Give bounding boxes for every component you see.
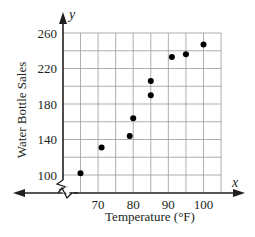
y-tick-labels: 100140180220260 <box>38 26 58 183</box>
data-point <box>169 54 175 60</box>
data-point <box>130 115 136 121</box>
x-axis-arrow-right-icon <box>233 189 245 197</box>
x-tick-label: 100 <box>194 197 214 212</box>
data-point <box>148 78 154 84</box>
x-axis-letter: x <box>231 175 239 190</box>
data-point <box>183 51 189 57</box>
y-tick-label: 220 <box>38 61 58 76</box>
data-point <box>99 144 105 150</box>
x-axis-label: Temperature (°F) <box>105 209 195 224</box>
grid-lines <box>63 33 221 193</box>
y-tick-label: 100 <box>38 168 58 183</box>
x-tick-label: 70 <box>92 197 105 212</box>
y-axis-label: Water Bottle Sales <box>14 62 29 158</box>
scatter-chart: 100140180220260 708090100 y x Temperatur… <box>0 0 255 237</box>
y-tick-label: 260 <box>38 26 58 41</box>
data-point <box>148 92 154 98</box>
y-tick-label: 140 <box>38 132 58 147</box>
data-point <box>127 133 133 139</box>
data-point <box>201 42 207 48</box>
y-axis-letter: y <box>67 7 76 22</box>
data-point <box>78 170 84 176</box>
data-points <box>78 42 207 177</box>
y-tick-label: 180 <box>38 97 58 112</box>
x-axis-arrow-left-icon <box>13 189 25 197</box>
y-axis-arrow-icon <box>59 12 67 24</box>
